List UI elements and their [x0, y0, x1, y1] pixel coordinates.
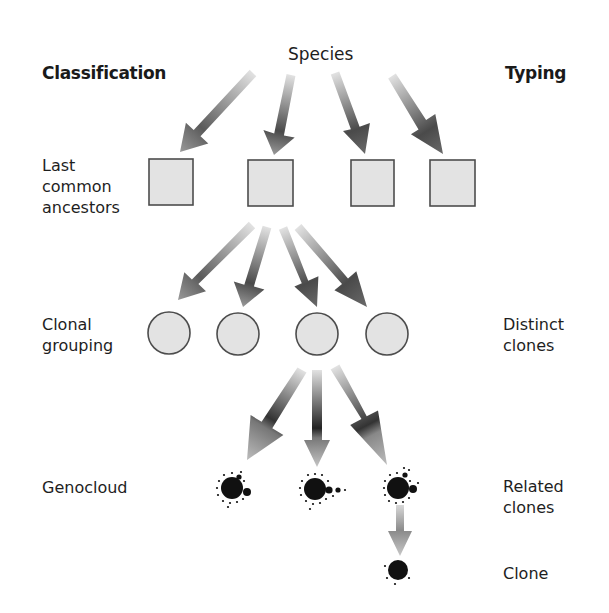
arrow-icon [304, 370, 330, 467]
clonal-group-circle [148, 312, 190, 354]
ancestor-square [149, 159, 193, 205]
genocloud-icon [383, 467, 419, 504]
arrow-icon [388, 505, 412, 556]
label-clonal-grouping: Clonal grouping [42, 314, 113, 356]
label-genocloud: Genocloud [42, 477, 128, 498]
clonal-group-circle [366, 313, 408, 355]
clonal-group-circle [217, 313, 259, 355]
arrow-icon [331, 71, 370, 154]
arrow-icon [263, 74, 295, 155]
clonal-hierarchy-diagram [0, 0, 609, 613]
clone-dot-icon [388, 560, 408, 580]
species-to-ancestor-arrows [180, 70, 443, 155]
label-last-common-ancestors: Last common ancestors [42, 155, 120, 218]
label-distinct-clones: Distinct clones [503, 314, 564, 356]
genocloud-icon [216, 471, 251, 508]
genocloud-nodes [216, 467, 419, 510]
ancestor-nodes [149, 159, 475, 206]
arrow-icon [247, 368, 307, 460]
clonal-group-nodes [148, 312, 408, 355]
label-clone: Clone [503, 563, 548, 584]
classification-header: Classification [42, 63, 166, 83]
label-related-clones: Related clones [503, 476, 564, 518]
clonal-group-circle [296, 313, 338, 355]
typing-header: Typing [505, 63, 566, 83]
arrow-icon [180, 70, 256, 152]
arrow-icon [331, 365, 387, 465]
arrow-icon [388, 74, 443, 155]
ancestor-square [248, 160, 293, 206]
clone-node [384, 560, 410, 585]
clone-to-genocloud-arrows [247, 365, 387, 467]
ancestor-to-clone-arrows [178, 222, 367, 307]
species-label: Species [288, 44, 353, 64]
genocloud-icon [299, 473, 346, 510]
ancestor-square [430, 160, 475, 206]
ancestor-square [351, 160, 394, 206]
